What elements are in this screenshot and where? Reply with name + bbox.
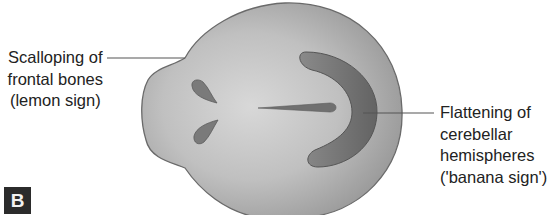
annotation-lemon-line-2: frontal bones: [8, 69, 103, 91]
annotation-lemon-sign: Scalloping of frontal bones (lemon sign): [8, 47, 103, 112]
annotation-banana-line-4: ('banana sign'): [440, 167, 547, 189]
panel-label: B: [4, 187, 31, 214]
annotation-banana-line-2: cerebellar: [440, 124, 547, 146]
annotation-banana-line-3: hemispheres: [440, 145, 547, 167]
annotation-lemon-line-3: (lemon sign): [8, 90, 103, 112]
annotation-lemon-line-1: Scalloping of: [8, 47, 103, 69]
annotation-banana-line-1: Flattening of: [440, 102, 547, 124]
annotation-banana-sign: Flattening of cerebellar hemispheres ('b…: [440, 102, 547, 188]
